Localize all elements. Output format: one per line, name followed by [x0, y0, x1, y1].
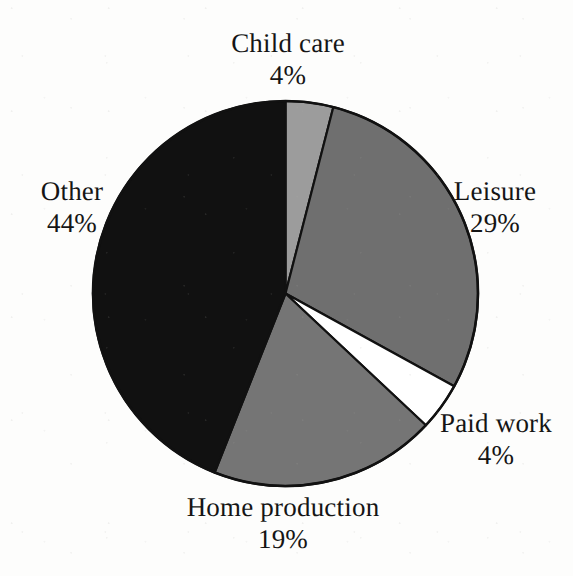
pie-label-leisure-value: 29%	[420, 208, 570, 240]
pie-label-other-name: Other	[6, 176, 138, 208]
pie-label-leisure-name: Leisure	[420, 176, 570, 208]
pie-label-leisure: Leisure 29%	[420, 176, 570, 240]
pie-label-child-care-name: Child care	[188, 28, 388, 60]
pie-label-other: Other 44%	[6, 176, 138, 240]
pie-label-child-care-value: 4%	[188, 60, 388, 92]
pie-label-paid-work-name: Paid work	[419, 408, 573, 440]
pie-label-paid-work-value: 4%	[419, 440, 573, 472]
pie-label-paid-work: Paid work 4%	[419, 408, 573, 472]
pie-label-home-production: Home production 19%	[145, 492, 421, 556]
pie-label-home-production-value: 19%	[145, 524, 421, 556]
pie-label-other-value: 44%	[6, 208, 138, 240]
pie-label-child-care: Child care 4%	[188, 28, 388, 92]
pie-label-home-production-name: Home production	[145, 492, 421, 524]
pie-chart-figure: Child care 4% Leisure 29% Paid work 4% H…	[0, 0, 573, 576]
